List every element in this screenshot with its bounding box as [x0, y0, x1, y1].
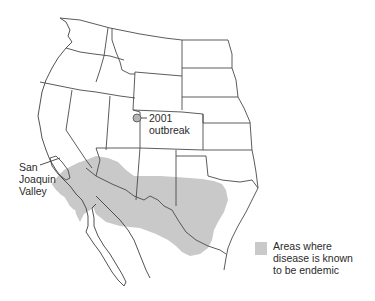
wy-west-border — [133, 72, 135, 110]
eastern-boundary — [224, 40, 258, 270]
valley-line-3: Valley — [19, 185, 56, 197]
ca-nv-border — [66, 90, 92, 168]
legend-line-3: to be endemic — [273, 264, 373, 276]
outbreak-year: 2001 — [149, 112, 190, 124]
or-ca-nv-border — [40, 82, 96, 92]
legend-label: Areas where disease is known to be endem… — [273, 240, 373, 276]
mt-south-border — [135, 72, 182, 76]
san-joaquin-valley-label: San Joaquin Valley — [19, 161, 56, 197]
legend: Areas where disease is known to be endem… — [255, 240, 373, 276]
outbreak-text: outbreak — [149, 124, 190, 136]
valley-line-1: San — [19, 161, 56, 173]
id-mt-border — [112, 28, 135, 74]
pacific-coastline — [38, 18, 126, 286]
outbreak-marker — [133, 114, 141, 122]
id-south-border — [96, 92, 135, 98]
nv-ut-border — [106, 96, 110, 150]
legend-swatch — [255, 242, 267, 255]
legend-line-1: Areas where — [273, 240, 373, 252]
endemic-disease-map: 2001 outbreak San Joaquin Valley Areas w… — [0, 0, 375, 301]
legend-line-2: disease is known — [273, 252, 373, 264]
four-corners-line — [96, 148, 203, 150]
outbreak-label: 2001 outbreak — [149, 112, 190, 136]
valley-line-2: Joaquin — [19, 173, 56, 185]
canada-border — [60, 18, 228, 40]
